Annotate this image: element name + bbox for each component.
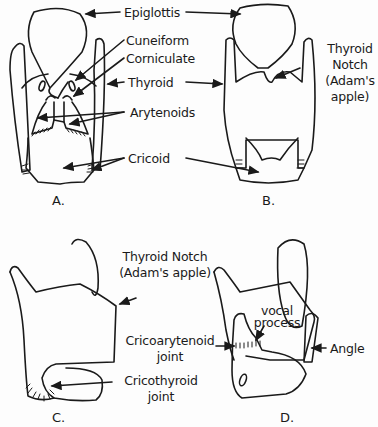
panel-label-d: D. [280, 410, 294, 425]
label-arytenoids: Arytenoids [130, 106, 195, 119]
label-corniculate: Corniculate [126, 52, 195, 65]
larynx-diagram: Epiglottis Cuneiform Corniculate Thyroid… [0, 0, 378, 427]
label-thyroid-notch-b-4: apple) [324, 90, 376, 103]
label-cricoarytenoid-1: Cricoarytenoid [118, 334, 222, 347]
panel-a-drawing [10, 8, 124, 184]
label-epiglottis: Epiglottis [124, 6, 180, 19]
panel-label-a: A. [52, 193, 65, 208]
label-cricothyroid-2: joint [116, 390, 206, 403]
label-angle: Angle [330, 342, 365, 355]
panel-label-c: C. [52, 410, 65, 425]
label-cricoarytenoid-2: joint [118, 350, 222, 363]
label-vocal-process-2: process [252, 316, 302, 329]
label-thyroid: Thyroid [128, 76, 173, 89]
label-cricoid: Cricoid [128, 152, 170, 165]
label-thyroid-notch-b-1: Thyroid [324, 42, 376, 55]
label-thyroid-notch-b-3: (Adam's [324, 74, 376, 87]
label-cuneiform: Cuneiform [126, 34, 189, 47]
label-cricothyroid-1: Cricothyroid [116, 374, 206, 387]
label-thyroid-notch-c-1: Thyroid Notch [110, 250, 220, 263]
panel-b-drawing [186, 4, 315, 183]
panel-label-b: B. [262, 193, 275, 208]
epiglottis-shape [28, 8, 86, 98]
label-thyroid-notch-c-2: (Adam's apple) [110, 266, 220, 279]
label-thyroid-notch-b-2: Notch [324, 58, 376, 71]
epiglottis-b [233, 4, 295, 68]
